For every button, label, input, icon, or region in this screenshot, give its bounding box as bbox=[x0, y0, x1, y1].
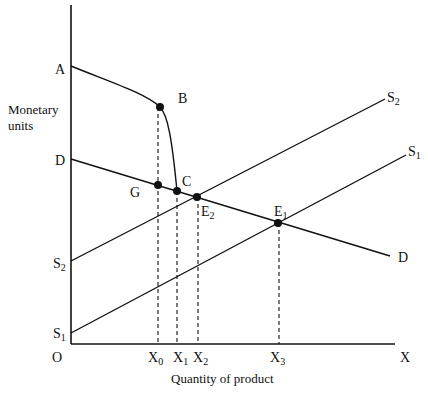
supply-demand-diagram: Monetary units A D S2 S1 O X X0 X1 X2 X3… bbox=[0, 0, 428, 397]
label-b: B bbox=[178, 91, 187, 106]
label-x3: X3 bbox=[270, 350, 285, 367]
x-axis-title: Quantity of product bbox=[171, 371, 274, 386]
label-x2: X2 bbox=[193, 350, 208, 367]
label-d-end: D bbox=[398, 250, 408, 265]
label-e2: E2 bbox=[201, 204, 215, 221]
point-b bbox=[156, 103, 164, 111]
label-s1-axis: S1 bbox=[53, 326, 66, 343]
label-s2-axis: S2 bbox=[53, 256, 66, 273]
label-d-axis: D bbox=[55, 153, 65, 168]
point-e1 bbox=[274, 219, 282, 227]
point-e2 bbox=[193, 193, 201, 201]
demand-line bbox=[71, 159, 390, 256]
label-x0: X0 bbox=[148, 350, 163, 367]
y-axis-title-line1: Monetary bbox=[8, 102, 59, 117]
point-g bbox=[154, 181, 162, 189]
label-c: C bbox=[182, 174, 191, 189]
label-s1-end: S1 bbox=[408, 144, 421, 161]
supply-line-s2 bbox=[71, 99, 385, 261]
curve-abc bbox=[71, 66, 177, 191]
y-axis-title-line2: units bbox=[8, 118, 33, 133]
point-c bbox=[173, 187, 181, 195]
label-g: G bbox=[130, 185, 140, 200]
supply-line-s1 bbox=[71, 155, 406, 333]
label-origin: O bbox=[52, 350, 62, 365]
label-x-axis-end: X bbox=[400, 350, 410, 365]
label-s2-end: S2 bbox=[387, 90, 400, 107]
label-e1: E1 bbox=[274, 204, 288, 221]
label-x1: X1 bbox=[173, 350, 188, 367]
label-a: A bbox=[55, 62, 66, 77]
